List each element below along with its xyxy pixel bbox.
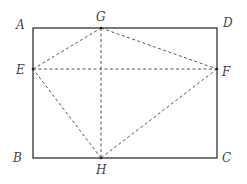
label-g: G — [96, 10, 106, 24]
label-e: E — [15, 63, 25, 77]
label-f: F — [221, 65, 231, 79]
rectangle-abcd — [33, 28, 217, 158]
label-h: H — [95, 163, 107, 177]
label-c: C — [222, 151, 231, 165]
point-h-dot — [100, 157, 103, 160]
geometry-diagram: A G D E F B H C — [0, 0, 247, 184]
segment-gf — [101, 28, 217, 69]
label-b: B — [12, 151, 22, 165]
point-e-dot — [32, 68, 35, 71]
segment-he — [33, 69, 101, 158]
label-d: D — [222, 16, 233, 30]
segment-eg — [33, 28, 101, 69]
point-g-dot — [100, 27, 103, 30]
label-a: A — [15, 18, 25, 32]
segment-fh — [101, 69, 217, 158]
point-f-dot — [216, 68, 219, 71]
